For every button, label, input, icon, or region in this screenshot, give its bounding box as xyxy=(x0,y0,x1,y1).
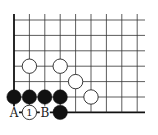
black-stone xyxy=(22,90,36,104)
white-stone xyxy=(22,59,36,73)
black-stone xyxy=(53,105,67,119)
white-stone xyxy=(84,90,98,104)
white-stone xyxy=(68,74,82,88)
white-stone xyxy=(53,59,67,73)
black-stone xyxy=(38,90,52,104)
go-board-diagram: AB1 xyxy=(0,0,158,135)
move-number: 1 xyxy=(26,107,32,118)
black-stone xyxy=(53,90,67,104)
black-stone xyxy=(7,90,21,104)
point-label: A xyxy=(9,106,19,120)
point-label: B xyxy=(40,106,49,120)
